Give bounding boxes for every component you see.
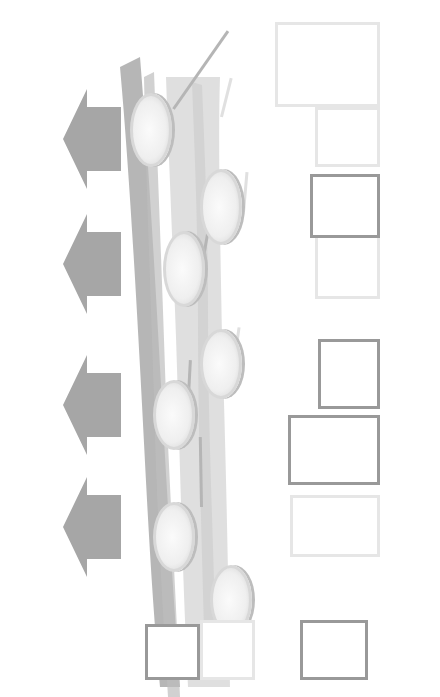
- stage-acceptance: [130, 93, 172, 167]
- row-label-purpose: [300, 620, 368, 680]
- diagram-page: [0, 0, 440, 697]
- purpose-anger: [318, 339, 380, 409]
- stage-guilt: [200, 329, 242, 399]
- purpose-sadness: [275, 22, 380, 107]
- purpose-shock: [290, 495, 380, 557]
- purpose-depression: [315, 107, 380, 167]
- purpose-denial: [288, 415, 380, 485]
- stage-depression: [200, 169, 242, 245]
- purpose-guilt: [315, 234, 380, 299]
- row-label-person: [200, 620, 255, 680]
- stage-denial: [153, 502, 195, 572]
- stage-bargaining: [163, 231, 205, 307]
- stage-anger: [153, 380, 195, 450]
- purpose-bargaining: [310, 174, 380, 238]
- row-label-world: [145, 624, 200, 680]
